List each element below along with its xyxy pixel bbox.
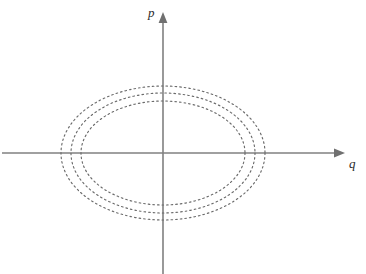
p-axis [159, 12, 168, 274]
q-axis [2, 149, 345, 158]
phase-space-figure: p q [0, 0, 366, 274]
q-axis-label: q [349, 157, 356, 170]
figure-canvas [0, 0, 366, 274]
q-axis-arrowhead [334, 149, 345, 158]
p-axis-arrowhead [159, 12, 168, 23]
p-axis-label: p [148, 6, 155, 19]
